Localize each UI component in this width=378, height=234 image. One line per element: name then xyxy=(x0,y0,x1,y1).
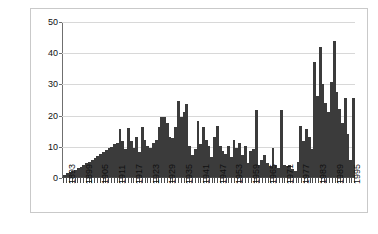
y-tick-mark xyxy=(59,116,62,117)
x-tick-label: 1935 xyxy=(184,164,194,184)
bar-series xyxy=(63,22,355,177)
plot-area: 01020304050 xyxy=(62,22,355,178)
x-tick-label: 1953 xyxy=(234,164,244,184)
x-tick-label: 1971 xyxy=(285,164,295,184)
x-tick-label: 1893 xyxy=(67,164,77,184)
x-tick-label: 1977 xyxy=(301,164,311,184)
x-tick-label: 1959 xyxy=(251,164,261,184)
y-tick-label: 0 xyxy=(53,173,58,183)
x-tick-label: 1965 xyxy=(268,164,278,184)
x-tick-label: 1947 xyxy=(218,164,228,184)
x-tick-label: 1941 xyxy=(201,164,211,184)
x-tick-label: 1923 xyxy=(151,164,161,184)
x-tick-label: 1905 xyxy=(100,164,110,184)
x-tick-label: 1995 xyxy=(352,164,362,184)
y-tick-label: 20 xyxy=(48,111,58,121)
x-tick-label: 1989 xyxy=(335,164,345,184)
y-tick-mark xyxy=(59,147,62,148)
y-tick-label: 50 xyxy=(48,17,58,27)
x-tick-labels: 1893189919051911191719231929193519411947… xyxy=(62,184,355,230)
y-tick-mark xyxy=(59,22,62,23)
x-tick-label: 1983 xyxy=(318,164,328,184)
x-tick-label: 1929 xyxy=(167,164,177,184)
y-tick-label: 40 xyxy=(48,48,58,58)
y-tick-mark xyxy=(59,84,62,85)
x-tick-label: 1911 xyxy=(117,165,127,184)
x-tick-label: 1917 xyxy=(134,164,144,184)
y-tick-label: 30 xyxy=(48,79,58,89)
x-tick-label: 1899 xyxy=(84,164,94,184)
y-tick-mark xyxy=(59,53,62,54)
y-tick-label: 10 xyxy=(48,142,58,152)
chart-figure: Catch in millions of fish 01020304050 18… xyxy=(0,0,378,234)
